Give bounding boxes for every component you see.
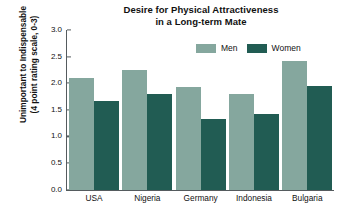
y-axis-title: Unimportant to Indispensable (4 point ra… <box>18 0 39 141</box>
x-axis-line <box>66 190 334 191</box>
x-axis-labels: USANigeriaGermanyIndonesiaBulgaria <box>67 193 334 203</box>
y-axis-tick-label: 0.0 <box>40 186 62 194</box>
bar-women-bulgaria <box>307 86 332 190</box>
plot-area: 0.00.51.01.52.02.53.0 <box>66 30 334 191</box>
x-axis-label-usa: USA <box>67 193 120 203</box>
bar-women-germany <box>201 119 226 189</box>
bar-groups <box>67 30 334 190</box>
bar-group <box>227 30 280 190</box>
bar-group <box>174 30 227 190</box>
bar-women-usa <box>94 101 119 189</box>
y-axis-tick-label: 1.0 <box>40 132 62 140</box>
chart-title-line-2: in a Long-term Mate <box>60 16 342 28</box>
bar-men-usa <box>69 78 94 190</box>
bar-men-bulgaria <box>282 61 307 190</box>
y-axis-tick-label: 2.5 <box>40 53 62 61</box>
bar-group <box>67 30 120 190</box>
y-axis-tick-label: 2.0 <box>40 79 62 87</box>
x-axis-label-bulgaria: Bulgaria <box>281 193 334 203</box>
x-axis-label-nigeria: Nigeria <box>121 193 174 203</box>
bar-group <box>281 30 334 190</box>
y-axis-title-line-2: (4 point rating scale, 0-3) <box>28 0 39 141</box>
y-axis-tick-label: 1.5 <box>40 106 62 114</box>
bar-women-nigeria <box>147 94 172 190</box>
y-axis-tick-label: 3.0 <box>40 26 62 34</box>
bar-women-indonesia <box>254 114 279 190</box>
bar-group <box>121 30 174 190</box>
chart-title: Desire for Physical Attractiveness in a … <box>60 4 342 27</box>
x-axis-label-indonesia: Indonesia <box>227 193 280 203</box>
bar-men-nigeria <box>122 70 147 190</box>
y-axis-title-line-1: Unimportant to Indispensable <box>18 0 29 141</box>
chart-figure: Desire for Physical Attractiveness in a … <box>0 0 348 217</box>
bar-men-germany <box>176 87 201 189</box>
x-axis-label-germany: Germany <box>174 193 227 203</box>
chart-title-line-1: Desire for Physical Attractiveness <box>60 4 342 16</box>
y-axis-tick-label: 0.5 <box>40 159 62 167</box>
bar-men-indonesia <box>229 94 254 190</box>
